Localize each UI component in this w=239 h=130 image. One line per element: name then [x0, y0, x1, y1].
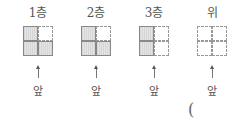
grid-cell [23, 41, 38, 56]
view-title: 2층 [76, 6, 116, 20]
grid-cell [38, 41, 53, 56]
grid-cell [197, 26, 212, 41]
answer-parenthesis: ( [188, 100, 194, 119]
up-arrow-icon [154, 68, 155, 78]
grid-cell [154, 26, 169, 41]
view-title: 위 [192, 6, 232, 20]
view-1: 2층 앞 [76, 6, 116, 98]
view-3: 위 앞 [192, 6, 232, 98]
view-title: 3층 [134, 6, 174, 20]
grid [23, 26, 53, 56]
up-arrow-icon [212, 68, 213, 78]
grid-cell [139, 41, 154, 56]
front-label: 앞 [76, 82, 116, 98]
grid [139, 26, 169, 56]
grid-cell [81, 41, 96, 56]
grid-cell [212, 26, 227, 41]
grid-cell [154, 41, 169, 56]
grid-cell [96, 41, 111, 56]
up-arrow-icon [38, 68, 39, 78]
front-label: 앞 [192, 82, 232, 98]
up-arrow-icon [96, 68, 97, 78]
grid-cell [197, 41, 212, 56]
grid [197, 26, 227, 56]
grid-cell [23, 26, 38, 41]
grid-cell [38, 26, 53, 41]
grid [81, 26, 111, 56]
front-label: 앞 [18, 82, 58, 98]
view-title: 1층 [18, 6, 58, 20]
grid-cell [212, 41, 227, 56]
grid-cell [81, 26, 96, 41]
grid-cell [96, 26, 111, 41]
front-label: 앞 [134, 82, 174, 98]
view-2: 3층 앞 [134, 6, 174, 98]
grid-cell [139, 26, 154, 41]
view-0: 1층 앞 [18, 6, 58, 98]
